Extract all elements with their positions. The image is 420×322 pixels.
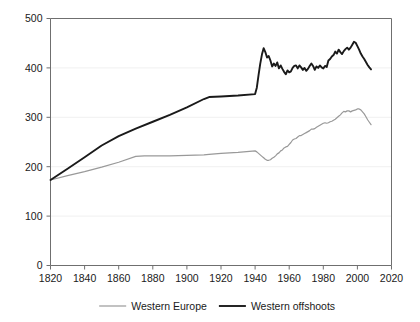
y-tick-label-200: 200 (25, 161, 43, 173)
grid-lines (51, 19, 392, 217)
y-tick-label-300: 300 (25, 111, 43, 123)
y-tick-label-400: 400 (25, 62, 43, 74)
y-tick-label-100: 100 (25, 210, 43, 222)
x-tick-label-1940: 1940 (243, 272, 267, 284)
x-tick-label-2000: 2000 (346, 272, 370, 284)
line-chart: 0100200300400500 18201840186018801900192… (0, 0, 420, 322)
y-axis-ticks: 0100200300400500 (25, 12, 51, 271)
x-tick-label-1920: 1920 (209, 272, 233, 284)
x-tick-label-1880: 1880 (141, 272, 165, 284)
x-tick-label-1960: 1960 (278, 272, 302, 284)
x-tick-label-1860: 1860 (107, 272, 131, 284)
chart-legend: Western EuropeWestern offshoots (99, 300, 335, 312)
x-tick-label-1900: 1900 (175, 272, 199, 284)
axis-frame (51, 19, 392, 266)
x-tick-label-2020: 2020 (380, 272, 404, 284)
series-line-western-offshoots (51, 42, 372, 180)
x-tick-label-1820: 1820 (39, 272, 63, 284)
y-tick-label-500: 500 (25, 12, 43, 24)
x-tick-label-1980: 1980 (312, 272, 336, 284)
legend-label-1: Western offshoots (251, 300, 335, 312)
axis-lines (51, 19, 392, 266)
y-tick-label-0: 0 (37, 259, 43, 271)
x-tick-label-1840: 1840 (73, 272, 97, 284)
chart-container: 0100200300400500 18201840186018801900192… (0, 0, 420, 322)
legend-label-0: Western Europe (131, 300, 207, 312)
series-line-western-europe (51, 109, 372, 180)
x-axis-ticks: 1820184018601880190019201940196019802000… (39, 266, 404, 284)
data-series (51, 42, 372, 180)
